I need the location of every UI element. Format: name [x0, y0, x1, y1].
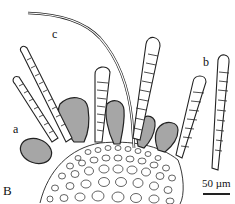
- panel-label: B: [3, 185, 12, 197]
- scale-bar-label: 50 µm: [202, 177, 231, 189]
- specimen-drawing: [0, 0, 235, 204]
- label-b: b: [203, 56, 209, 68]
- scale-bar: [203, 193, 230, 195]
- figure-panel: a b c B 50 µm: [0, 0, 235, 204]
- label-a: a: [13, 123, 18, 135]
- label-c: c: [52, 28, 57, 40]
